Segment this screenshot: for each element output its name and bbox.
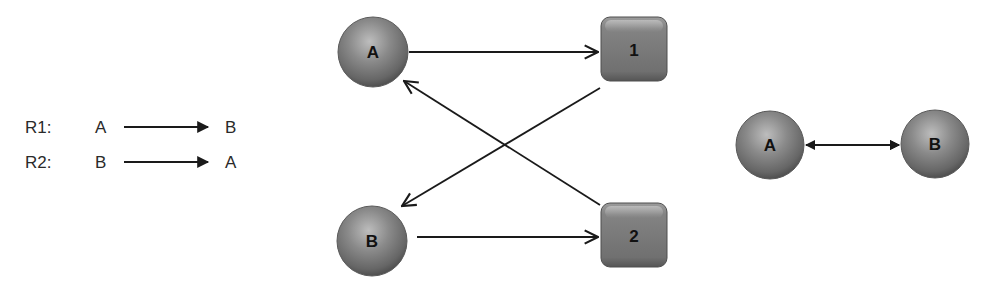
reaction-r1: R1: A B [25, 118, 236, 137]
product: B [225, 118, 236, 137]
node-label: 1 [629, 41, 638, 60]
reactant: A [95, 118, 107, 137]
bipartite-graph: A B 1 2 [337, 17, 667, 276]
node-label: 2 [629, 227, 638, 246]
node-label: B [929, 135, 941, 154]
simple-node-a[interactable]: A [736, 111, 804, 179]
node-label: A [367, 43, 379, 62]
reaction-label: R1: [25, 118, 51, 137]
node-label: A [764, 136, 776, 155]
reaction-r2: R2: B A [25, 153, 237, 172]
reaction-node-1[interactable]: 1 [601, 17, 667, 81]
gloss-highlight [605, 206, 663, 218]
gloss-highlight [605, 20, 663, 32]
reaction-network-diagram: R1: A B R2: B A A B [0, 0, 1004, 287]
bipartite-edges [402, 52, 600, 237]
arrowhead-right-icon [890, 140, 900, 150]
simple-node-b[interactable]: B [901, 110, 969, 178]
reaction-list: R1: A B R2: B A [25, 118, 237, 172]
arrowhead-left-icon [805, 140, 815, 150]
product: A [225, 153, 237, 172]
reactant: B [95, 153, 106, 172]
species-node-a[interactable]: A [338, 17, 408, 87]
reaction-label: R2: [25, 153, 51, 172]
simple-graph: A B [736, 110, 969, 179]
species-node-b[interactable]: B [337, 206, 407, 276]
node-label: B [366, 232, 378, 251]
edge-1-to-b [402, 88, 600, 206]
reaction-node-2[interactable]: 2 [601, 203, 667, 267]
